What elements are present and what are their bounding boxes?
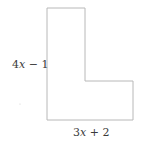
stray-dot	[19, 103, 20, 104]
width-label: 3x + 2	[73, 126, 109, 139]
l-shape-diagram: 4x − 1 3x + 2	[0, 0, 143, 142]
height-label: 4x − 1	[12, 58, 48, 71]
l-shape-outline	[47, 8, 133, 120]
